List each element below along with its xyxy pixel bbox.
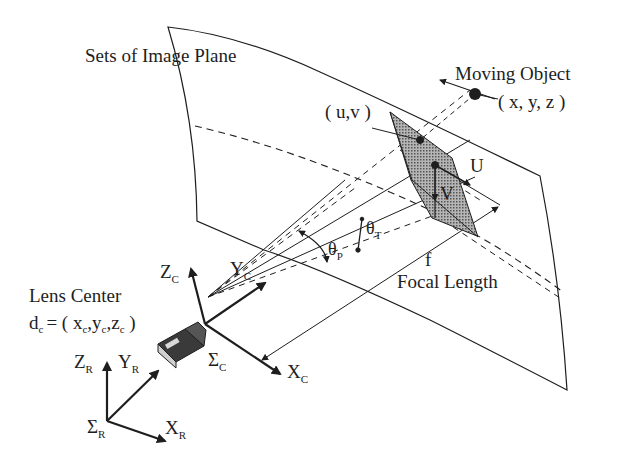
camera-geometry-diagram: Sets of Image Plane Moving Object ( x, y… [0, 0, 628, 473]
projection-rays [208, 90, 560, 405]
image-plane-label: Sets of Image Plane [85, 45, 236, 66]
focal-length-label: Focal Length [397, 271, 498, 292]
tilt-angle-label: θT [366, 218, 382, 241]
image-point-label: ( u,v ) [325, 101, 371, 123]
moving-object [420, 80, 498, 140]
lens-center-label: Lens Center [29, 285, 122, 306]
yc-axis-label: YC [230, 258, 251, 282]
image-patch [390, 112, 478, 237]
u-axis-label: U [470, 155, 484, 176]
zc-axis-label: ZC [160, 261, 179, 285]
camera-frame-origin-label: ΣC [208, 349, 226, 373]
robot-frame-origin-label: ΣR [87, 416, 106, 440]
camera-icon [158, 322, 206, 368]
moving-object-label: Moving Object [455, 63, 571, 84]
xr-axis-label: XR [165, 417, 187, 441]
pan-angle-label: θP [328, 239, 343, 262]
focal-symbol: f [425, 249, 432, 270]
v-axis-label: V [440, 183, 454, 204]
yr-axis-label: YR [118, 351, 140, 375]
zr-axis-label: ZR [74, 351, 94, 375]
xc-axis-label: XC [287, 361, 308, 385]
lens-center-equation: dc= ( xc,yc,zc ) [29, 312, 136, 335]
object-coords-label: ( x, y, z ) [498, 91, 565, 113]
